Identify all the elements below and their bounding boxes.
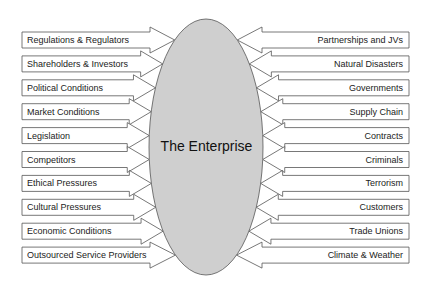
left-factor-label: Regulations & Regulators: [27, 34, 129, 46]
left-factor-label: Economic Conditions: [27, 225, 112, 237]
right-factor-label: Partnerships and JVs: [317, 34, 403, 46]
left-factor-label: Cultural Pressures: [27, 201, 101, 213]
right-factor-label: Trade Unions: [349, 225, 403, 237]
right-factor-label: Criminals: [365, 154, 403, 166]
left-factor-label: Ethical Pressures: [27, 177, 97, 189]
right-factor-label: Governments: [349, 82, 403, 94]
right-factor-label: Customers: [359, 201, 403, 213]
center-label: The Enterprise: [150, 138, 263, 154]
left-factor-label: Shareholders & Investors: [27, 58, 128, 70]
right-factor-label: Supply Chain: [349, 106, 403, 118]
right-factor-label: Natural Disasters: [334, 58, 403, 70]
left-factor-label: Market Conditions: [27, 106, 100, 118]
right-factor-label: Climate & Weather: [328, 249, 403, 261]
right-factor-label: Contracts: [364, 130, 403, 142]
left-factor-label: Political Conditions: [27, 82, 103, 94]
right-factor-label: Terrorism: [366, 177, 404, 189]
left-factor-label: Legislation: [27, 130, 70, 142]
left-factor-label: Outsourced Service Providers: [27, 249, 147, 261]
left-factor-label: Competitors: [27, 154, 76, 166]
